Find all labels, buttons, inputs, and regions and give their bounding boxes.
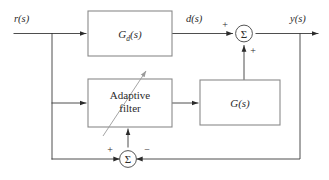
summer-bottom-glyph: Σ: [125, 153, 131, 165]
summer-top-sign-left: +: [222, 19, 228, 30]
block-adaptive-filter-label-line2: filter: [119, 102, 141, 114]
block-adaptive-filter-label-line1: Adaptive: [110, 89, 150, 101]
label-disturbance-d: d(s): [186, 13, 203, 25]
summer-top-glyph: Σ: [241, 28, 247, 40]
block-diagram-canvas: r(s) d(s) y(s) Gd(s) Adaptive filter G(s…: [0, 0, 329, 180]
summer-top-sign-bottom: +: [250, 45, 256, 56]
block-gd-label-suffix: (s): [130, 28, 142, 41]
label-input-r: r(s): [14, 13, 30, 25]
summer-bottom-sign-left: +: [107, 144, 113, 155]
summer-bottom-sign-right: −: [144, 144, 150, 155]
label-output-y: y(s): [289, 13, 306, 25]
block-diagram-svg: r(s) d(s) y(s) Gd(s) Adaptive filter G(s…: [0, 0, 329, 180]
block-plant-g-label: G(s): [230, 97, 250, 110]
block-gd-label-main: G: [118, 28, 126, 40]
